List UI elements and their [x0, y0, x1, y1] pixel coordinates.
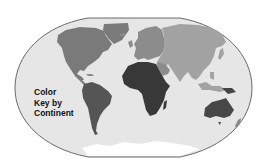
key-label-line-1: Color	[34, 87, 74, 98]
key-label-line-3: Continent	[34, 108, 74, 119]
key-label-line-2: Key by	[34, 98, 74, 109]
map-key-label: Color Key by Continent	[34, 87, 74, 119]
world-map	[0, 0, 261, 168]
